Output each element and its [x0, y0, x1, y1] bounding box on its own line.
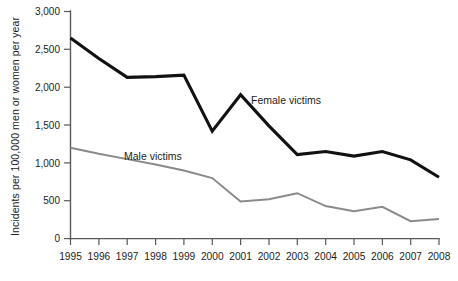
- x-tick-label: 1998: [144, 251, 167, 262]
- y-tick-label: 2,000: [35, 82, 60, 93]
- female-series-label: Female victims: [251, 94, 321, 106]
- x-tick-label: 2007: [399, 251, 422, 262]
- y-tick-label: 2,500: [35, 44, 60, 55]
- y-tick-label: 1,000: [35, 158, 60, 169]
- x-tick-label: 2003: [286, 251, 309, 262]
- chart-figure: Incidents per 100,000 men or women per y…: [0, 0, 458, 281]
- y-axis-title: Incidents per 100,000 men or women per y…: [9, 17, 21, 236]
- x-tick-label: 2008: [428, 251, 451, 262]
- x-tick-label: 2001: [229, 251, 252, 262]
- x-tick-label: 2000: [201, 251, 224, 262]
- y-tick-label: 500: [43, 195, 60, 206]
- x-tick-label: 1995: [59, 251, 82, 262]
- x-tick-label: 1999: [173, 251, 196, 262]
- x-tick-label: 2004: [314, 251, 337, 262]
- y-tick-label: 0: [54, 233, 60, 244]
- caption-strip: [0, 267, 458, 281]
- male-series-label: Male victims: [124, 150, 182, 162]
- x-tick-labels: 1995 1996 1997 1998 1999 2000 2001 2002 …: [59, 251, 450, 262]
- y-tick-marks: [64, 12, 71, 239]
- y-tick-labels: 3,000 2,500 2,000 1,500 1,000 500 0: [35, 6, 60, 244]
- line-chart-svg: Incidents per 100,000 men or women per y…: [0, 0, 458, 281]
- x-tick-marks: [71, 239, 440, 245]
- x-tick-label: 2002: [258, 251, 281, 262]
- y-tick-label: 3,000: [35, 6, 60, 17]
- x-tick-label: 2006: [371, 251, 394, 262]
- x-tick-label: 1996: [88, 251, 111, 262]
- y-tick-label: 1,500: [35, 120, 60, 131]
- x-tick-label: 1997: [116, 251, 139, 262]
- x-tick-label: 2005: [343, 251, 366, 262]
